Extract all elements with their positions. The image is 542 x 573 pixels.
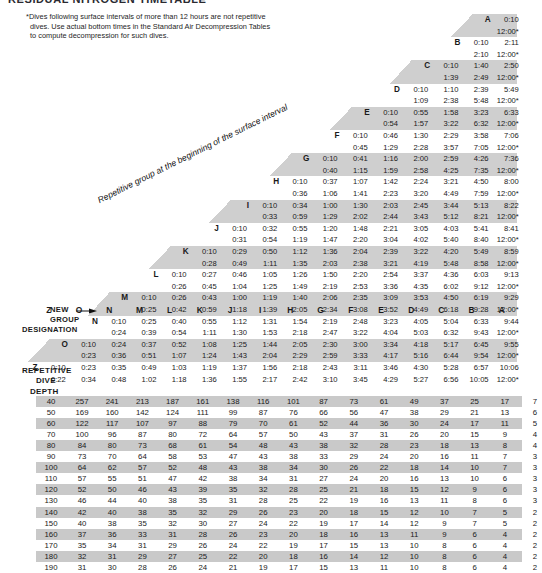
residual-nitrogen-value: 20 (369, 473, 399, 484)
residual-nitrogen-value: 8 (490, 440, 520, 451)
residual-nitrogen-value: 9 (490, 429, 520, 440)
residual-nitrogen-value: 36 (97, 529, 127, 540)
surface-interval-max-time: 2:59 (306, 350, 338, 362)
residual-nitrogen-value: 35 (188, 495, 218, 506)
residual-nitrogen-value: 17 (309, 540, 339, 551)
new-group-designation-letter: H (274, 305, 306, 316)
surface-interval-min-time: 4:05 (396, 316, 428, 328)
surface-interval-max-time: 5:12 (426, 211, 458, 223)
surface-interval-max-time: 12:00* (487, 49, 519, 61)
repetitive-dive-depth-value: 120 (36, 484, 66, 495)
surface-interval-min-time: 2:59 (426, 153, 458, 165)
surface-interval-max-time: 2:47 (306, 327, 338, 339)
surface-interval-min-time: 6:45 (457, 339, 489, 351)
residual-nitrogen-value: 48 (248, 440, 278, 451)
surface-interval-min-time: 0:32 (245, 223, 277, 235)
surface-interval-min-time: 8:00 (487, 176, 519, 188)
surface-interval-max-time: 6:32 (426, 327, 458, 339)
surface-interval-min-time: 0:50 (245, 246, 277, 258)
residual-nitrogen-value: 55 (97, 473, 127, 484)
surface-interval-max-time: 3:45 (336, 374, 368, 386)
surface-interval-max-time: 6:56 (426, 374, 458, 386)
surface-interval-max-time: 1:41 (336, 188, 368, 200)
residual-nitrogen-value: 40 (97, 507, 127, 518)
residual-nitrogen-value: 54 (218, 440, 248, 451)
surface-interval-max-time: 3:43 (396, 211, 428, 223)
surface-interval-min-time: 0:10 (215, 223, 247, 235)
surface-interval-max-time: 5:03 (396, 327, 428, 339)
surface-interval-min-time: 2:00 (396, 153, 428, 165)
residual-nitrogen-value: 80 (158, 429, 188, 440)
surface-interval-group-letter: A (459, 14, 491, 26)
surface-interval-max-time: 1:02 (124, 374, 156, 386)
residual-nitrogen-value: 13 (339, 562, 369, 573)
new-group-designation-letter: M (123, 305, 155, 316)
residual-nitrogen-value: 31 (158, 529, 188, 540)
surface-interval-min-time: 0:10 (336, 130, 368, 142)
residual-nitrogen-value: 17 (460, 418, 490, 429)
residual-nitrogen-value: 3 (520, 495, 542, 506)
new-group-designation-letter: Z (33, 305, 65, 316)
residual-nitrogen-value: 11 (490, 418, 520, 429)
surface-interval-min-time: 1:30 (336, 200, 368, 212)
surface-interval-max-time: 2:04 (245, 350, 277, 362)
residual-nitrogen-value: 23 (399, 440, 429, 451)
residual-nitrogen-value: 4 (490, 562, 520, 573)
surface-interval-max-time: 4:17 (366, 350, 398, 362)
residual-nitrogen-value: 2 (520, 529, 542, 540)
surface-interval-group-letter: B (428, 37, 460, 49)
surface-interval-min-time: 1:26 (275, 269, 307, 281)
surface-interval-min-time: 1:42 (366, 176, 398, 188)
surface-interval-min-time: 10:06 (487, 362, 519, 374)
residual-nitrogen-value: 2 (520, 507, 542, 518)
surface-interval-max-time: 2:17 (245, 374, 277, 386)
surface-interval-min-time: 0:10 (245, 200, 277, 212)
surface-interval-max-time: 12:00* (487, 281, 519, 293)
surface-interval-min-time: 0:55 (275, 223, 307, 235)
surface-interval-min-time: 2:29 (426, 130, 458, 142)
residual-nitrogen-value: 49 (399, 396, 429, 407)
surface-interval-min-time: 0:46 (215, 269, 247, 281)
surface-interval-max-time: 1:55 (215, 374, 247, 386)
surface-interval-min-time: 1:56 (245, 362, 277, 374)
surface-interval-max-time: 2:28 (396, 142, 428, 154)
surface-interval-min-time: 3:11 (336, 362, 368, 374)
new-group-designation-letter: B (456, 305, 488, 316)
residual-nitrogen-value: 61 (188, 440, 218, 451)
surface-interval-min-time: 0:10 (94, 316, 126, 328)
surface-interval-max-time: 9:54 (457, 350, 489, 362)
residual-nitrogen-table: 4025724121318716113811610187736149372517… (0, 396, 529, 556)
surface-interval-max-time: 4:19 (396, 258, 428, 270)
surface-interval-min-time: 4:50 (457, 176, 489, 188)
surface-interval-min-time: 0:10 (275, 176, 307, 188)
residual-nitrogen-value: 12 (399, 518, 429, 529)
residual-nitrogen-value: 35 (67, 540, 97, 551)
residual-nitrogen-value: 101 (278, 396, 308, 407)
residual-nitrogen-value: 27 (309, 473, 339, 484)
surface-interval-min-time: 9:29 (487, 292, 519, 304)
residual-nitrogen-value: 18 (369, 484, 399, 495)
surface-interval-min-time: 1:07 (336, 176, 368, 188)
residual-nitrogen-value: 4 (490, 551, 520, 562)
surface-interval-min-time: 1:48 (336, 223, 368, 235)
surface-interval-max-time: 7:05 (457, 142, 489, 154)
surface-interval-min-time: 5:28 (426, 362, 458, 374)
surface-interval-min-time: 1:19 (185, 362, 217, 374)
residual-nitrogen-value: 16 (369, 495, 399, 506)
surface-interval-max-time: 2:53 (336, 281, 368, 293)
residual-nitrogen-value: 13 (369, 529, 399, 540)
surface-interval-min-time: 2:11 (487, 37, 519, 49)
surface-interval-min-time: 0:49 (124, 362, 156, 374)
residual-nitrogen-value: 161 (188, 396, 218, 407)
residual-nitrogen-value: 38 (309, 440, 339, 451)
residual-nitrogen-value: 7 (460, 518, 490, 529)
surface-interval-max-time: 1:07 (155, 350, 187, 362)
surface-interval-max-time: 0:36 (94, 350, 126, 362)
residual-nitrogen-value: 19 (339, 495, 369, 506)
residual-nitrogen-value: 43 (309, 429, 339, 440)
residual-nitrogen-value: 25 (278, 495, 308, 506)
surface-interval-min-time: 2:50 (487, 60, 519, 72)
surface-interval-min-time: 1:12 (215, 316, 247, 328)
residual-nitrogen-value: 2 (520, 562, 542, 573)
residual-nitrogen-value: 9 (429, 529, 459, 540)
